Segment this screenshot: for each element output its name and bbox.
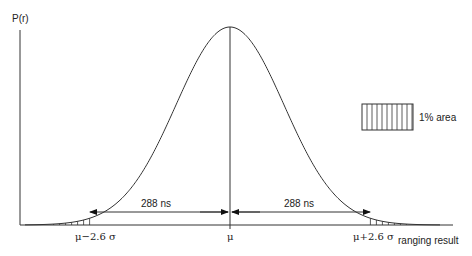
tick-mu-plus: μ+2.6 σ: [353, 231, 394, 242]
legend-label: 1% area: [419, 112, 457, 123]
tick-mu-minus: μ−2.6 σ: [75, 231, 116, 242]
tick-mu: μ: [227, 231, 234, 242]
y-axis-label: P(r): [12, 13, 29, 24]
gaussian-curve: [25, 27, 440, 225]
x-axis-label: ranging result: [398, 235, 459, 246]
left-interval-label: 288 ns: [141, 198, 171, 209]
gaussian-diagram: 288 ns 288 ns P(r) ranging result μ−2.6 …: [0, 0, 472, 256]
legend: 1% area: [362, 104, 457, 130]
right-interval-label: 288 ns: [284, 198, 314, 209]
legend-swatch: [362, 104, 413, 130]
